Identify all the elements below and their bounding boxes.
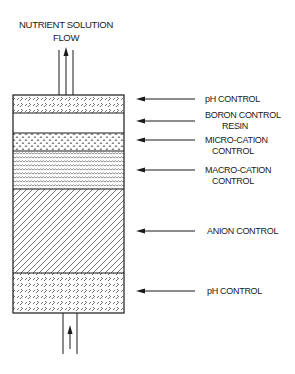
arrow-left-icon xyxy=(136,138,195,143)
label-text: MICRO-CATION xyxy=(205,135,268,146)
layer-micro-cation xyxy=(13,133,124,151)
label-micro-cation: MICRO-CATION CONTROL xyxy=(205,135,268,157)
layer-anion xyxy=(13,189,124,273)
diagram-title: NUTRIENT SOLUTION FLOW xyxy=(10,18,122,44)
label-boron-control: BORON CONTROL RESIN xyxy=(205,110,281,132)
arrow-left-icon xyxy=(136,168,195,173)
arrow-left-icon xyxy=(136,229,195,234)
flow-up-arrow-icon xyxy=(64,47,69,56)
label-text: ANION CONTROL xyxy=(207,226,278,237)
inlet-pipe xyxy=(63,313,77,354)
label-text: pH CONTROL xyxy=(205,94,260,105)
label-text: CONTROL xyxy=(205,146,268,157)
label-text: BORON CONTROL xyxy=(205,110,281,121)
layer-ph-top xyxy=(13,95,124,113)
layer-boron xyxy=(13,113,124,133)
label-ph-control-top: pH CONTROL xyxy=(205,94,260,105)
label-text: MACRO-CATION xyxy=(205,165,271,176)
layer-ph-bottom xyxy=(13,273,124,313)
label-ph-control-bottom: pH CONTROL xyxy=(207,286,262,297)
outlet-pipe xyxy=(59,47,73,95)
pointer-arrows xyxy=(136,97,195,294)
layer-macro-cation xyxy=(13,151,124,189)
label-macro-cation: MACRO-CATION CONTROL xyxy=(205,165,271,187)
title-line-2: FLOW xyxy=(10,31,122,44)
label-text: pH CONTROL xyxy=(207,286,262,297)
arrow-left-icon xyxy=(136,289,195,294)
title-line-1: NUTRIENT SOLUTION xyxy=(10,18,122,31)
label-anion-control: ANION CONTROL xyxy=(207,226,278,237)
flow-in-arrow-icon xyxy=(68,325,73,334)
label-text: RESIN xyxy=(205,121,281,132)
label-text: CONTROL xyxy=(205,176,271,187)
arrow-left-icon xyxy=(136,119,195,124)
column-diagram xyxy=(0,0,295,374)
arrow-left-icon xyxy=(136,97,195,102)
